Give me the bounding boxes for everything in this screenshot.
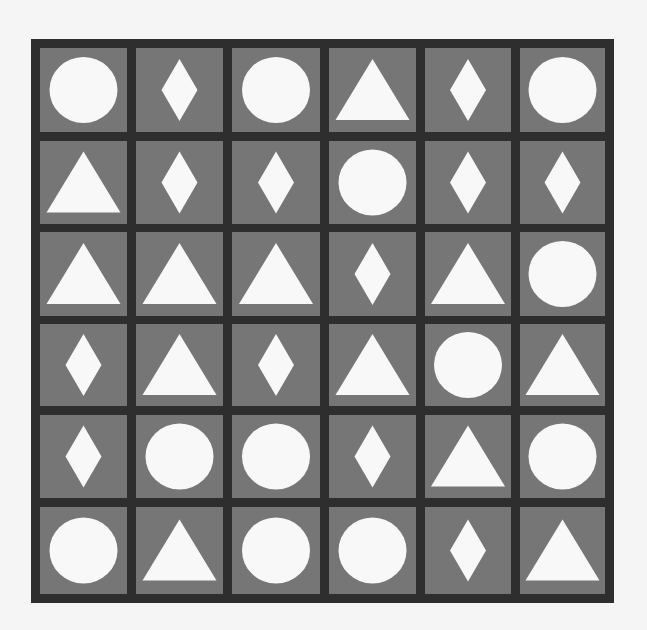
circle-icon — [232, 415, 320, 498]
circle-icon — [520, 232, 605, 316]
grid-cell-r5-c6[interactable] — [520, 415, 605, 498]
grid-cell-r3-c3[interactable] — [232, 232, 320, 316]
shape-grid-board — [31, 39, 614, 603]
diamond-icon — [136, 48, 223, 132]
grid-cell-r2-c1[interactable] — [40, 141, 127, 224]
grid-cell-r3-c6[interactable] — [520, 232, 605, 316]
grid-cell-r3-c2[interactable] — [136, 232, 223, 316]
grid-cell-r2-c4[interactable] — [329, 141, 416, 224]
grid-cell-r4-c6[interactable] — [520, 324, 605, 406]
triangle-icon — [40, 141, 127, 224]
grid-cell-r1-c5[interactable] — [425, 48, 511, 132]
circle-icon — [329, 507, 416, 594]
grid-cell-r1-c3[interactable] — [232, 48, 320, 132]
diamond-icon — [520, 141, 605, 224]
grid-cell-r6-c1[interactable] — [40, 507, 127, 594]
circle-icon — [232, 48, 320, 132]
circle-icon — [40, 48, 127, 132]
grid-cell-r2-c6[interactable] — [520, 141, 605, 224]
grid-cell-r4-c2[interactable] — [136, 324, 223, 406]
grid-cell-r5-c4[interactable] — [329, 415, 416, 498]
circle-icon — [520, 415, 605, 498]
grid-cell-r5-c3[interactable] — [232, 415, 320, 498]
triangle-icon — [520, 507, 605, 594]
grid-cell-r1-c4[interactable] — [329, 48, 416, 132]
diamond-icon — [40, 415, 127, 498]
grid-cell-r6-c6[interactable] — [520, 507, 605, 594]
grid-cell-r2-c2[interactable] — [136, 141, 223, 224]
diamond-icon — [40, 324, 127, 406]
grid-cell-r3-c4[interactable] — [329, 232, 416, 316]
diamond-icon — [329, 232, 416, 316]
grid-cell-r6-c2[interactable] — [136, 507, 223, 594]
grid-cell-r3-c5[interactable] — [425, 232, 511, 316]
circle-icon — [520, 48, 605, 132]
grid-cell-r5-c1[interactable] — [40, 415, 127, 498]
diamond-icon — [425, 141, 511, 224]
grid-cell-r5-c2[interactable] — [136, 415, 223, 498]
grid-cell-r1-c2[interactable] — [136, 48, 223, 132]
grid-cell-r6-c5[interactable] — [425, 507, 511, 594]
grid-cell-r1-c6[interactable] — [520, 48, 605, 132]
triangle-icon — [40, 232, 127, 316]
triangle-icon — [520, 324, 605, 406]
circle-icon — [40, 507, 127, 594]
circle-icon — [329, 141, 416, 224]
grid-cell-r4-c5[interactable] — [425, 324, 511, 406]
triangle-icon — [136, 507, 223, 594]
diamond-icon — [232, 141, 320, 224]
triangle-icon — [329, 48, 416, 132]
diamond-icon — [425, 507, 511, 594]
puzzle-stage — [0, 0, 647, 630]
circle-icon — [425, 324, 511, 406]
triangle-icon — [425, 232, 511, 316]
grid-cell-r4-c1[interactable] — [40, 324, 127, 406]
triangle-icon — [425, 415, 511, 498]
grid-cell-r2-c3[interactable] — [232, 141, 320, 224]
diamond-icon — [232, 324, 320, 406]
grid-cell-r2-c5[interactable] — [425, 141, 511, 224]
grid-cell-r1-c1[interactable] — [40, 48, 127, 132]
diamond-icon — [329, 415, 416, 498]
triangle-icon — [232, 232, 320, 316]
circle-icon — [232, 507, 320, 594]
diamond-icon — [425, 48, 511, 132]
grid-cell-r6-c4[interactable] — [329, 507, 416, 594]
triangle-icon — [136, 232, 223, 316]
triangle-icon — [329, 324, 416, 406]
grid-cell-r4-c3[interactable] — [232, 324, 320, 406]
triangle-icon — [136, 324, 223, 406]
grid-cell-r5-c5[interactable] — [425, 415, 511, 498]
grid-cell-r3-c1[interactable] — [40, 232, 127, 316]
grid-cell-r6-c3[interactable] — [232, 507, 320, 594]
grid-cell-r4-c4[interactable] — [329, 324, 416, 406]
diamond-icon — [136, 141, 223, 224]
circle-icon — [136, 415, 223, 498]
